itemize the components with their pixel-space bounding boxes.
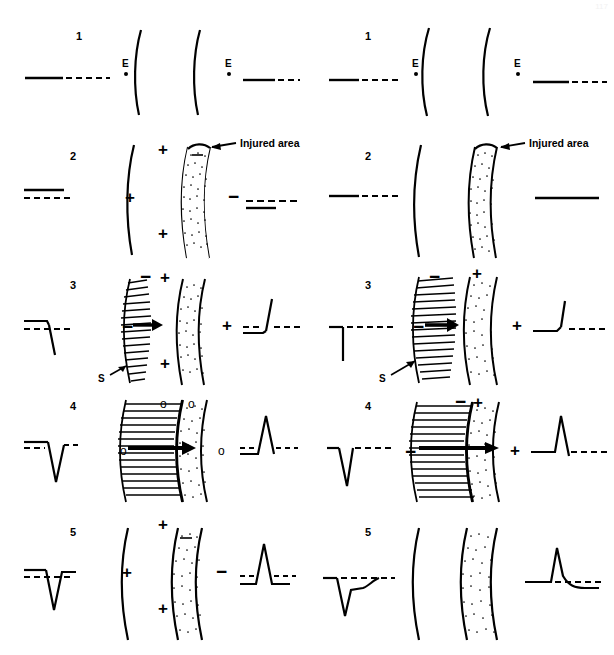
- row-graphics: [0, 390, 307, 510]
- injured-inner-edge: [469, 147, 475, 258]
- wall-inner: [127, 145, 134, 255]
- depolarization-wavefront: [121, 279, 151, 383]
- right-panel: 1 E E 2 Injured area: [307, 0, 614, 655]
- left-row-1: 1 E E: [0, 0, 307, 125]
- injured-outer-edge: [493, 402, 499, 502]
- right-row-2: 2 Injured area: [307, 125, 614, 265]
- row-graphics: [0, 265, 307, 390]
- current-direction-arrow: [419, 442, 499, 454]
- row-graphics: [0, 510, 307, 655]
- ecg-left-qs-st-elevated: [46, 570, 76, 610]
- ecg-right-r-complex: [531, 416, 569, 456]
- row-graphics: [307, 265, 614, 390]
- left-row-2: 2 Injured area + + + −: [0, 125, 307, 265]
- injured-outer-edge: [491, 277, 497, 385]
- ecg-right-r-wave: [266, 299, 272, 331]
- ecg-right-pre: [533, 327, 561, 331]
- row-graphics: [307, 390, 614, 510]
- injured-area-band: [182, 144, 210, 258]
- row-graphics: [307, 125, 614, 265]
- injured-inner-edge: [461, 528, 467, 640]
- injured-area-band: [177, 400, 207, 502]
- wall-inner: [122, 528, 128, 640]
- ecg-left-qs-complex: [339, 448, 353, 486]
- wall-inner: [413, 528, 419, 640]
- injured-area-band: [461, 528, 497, 640]
- stimulus-arrow: [110, 366, 126, 375]
- ecg-left-qs-complex: [48, 442, 64, 482]
- row-graphics: [307, 0, 614, 125]
- left-row-5: 5 + + + −: [0, 510, 307, 655]
- wavefront-leading-edge: [411, 402, 417, 502]
- injured-outer-edge: [201, 400, 207, 502]
- ecg-left-st: [24, 321, 49, 325]
- ecg-right-r-wave: [561, 301, 565, 327]
- right-row-4: 4 − − + +: [307, 390, 614, 510]
- wall-outer: [483, 28, 490, 116]
- depolarization-wavefront: [118, 400, 182, 502]
- right-row-3: 3 − − + + S: [307, 265, 614, 390]
- ecg-right-r-complex: [240, 416, 274, 454]
- depolarization-wavefront: [409, 402, 474, 502]
- wall-inner: [414, 145, 421, 257]
- injured-outer-edge: [491, 528, 497, 640]
- wall-inner: [135, 30, 141, 115]
- stimulus-arrow: [391, 361, 415, 375]
- wavefront-leading-edge: [120, 400, 126, 502]
- injured-fill: [182, 147, 210, 258]
- left-panel: 1 E E 2 Injured area + + + −: [0, 0, 307, 655]
- injured-inner-edge: [467, 402, 473, 502]
- injured-area-band: [172, 528, 202, 640]
- figure-root: 117 1 E E 2 Injured area + + +: [0, 0, 614, 655]
- wall-inner: [422, 28, 429, 116]
- injured-outer-edge: [196, 528, 202, 640]
- row-graphics: [0, 0, 307, 125]
- row-graphics: [0, 125, 307, 265]
- injured-area-band: [467, 402, 499, 502]
- injured-inner-edge: [464, 277, 470, 385]
- injured-top-cap: [475, 144, 497, 149]
- right-row-1: 1 E E: [307, 0, 614, 125]
- injured-inner-edge: [177, 279, 183, 385]
- injured-area-band: [177, 279, 205, 385]
- right-row-5: 5: [307, 510, 614, 655]
- injury-callout-arrow: [500, 143, 525, 150]
- injury-callout-arrow: [211, 143, 236, 150]
- injured-area-band: [464, 277, 497, 385]
- injured-outer-edge: [491, 147, 497, 258]
- left-row-4: 4 o o o o: [0, 390, 307, 510]
- current-direction-arrow: [133, 319, 163, 331]
- ecg-left-qs-recovery: [337, 578, 379, 616]
- ecg-right-r-st-depressed: [240, 544, 290, 584]
- ecg-right-st: [243, 331, 266, 333]
- injured-inner-edge: [172, 528, 178, 640]
- wall-outer: [194, 30, 200, 115]
- row-graphics: [307, 510, 614, 655]
- left-row-3: 3 − − + + + S: [0, 265, 307, 390]
- injured-area-band: [469, 144, 497, 258]
